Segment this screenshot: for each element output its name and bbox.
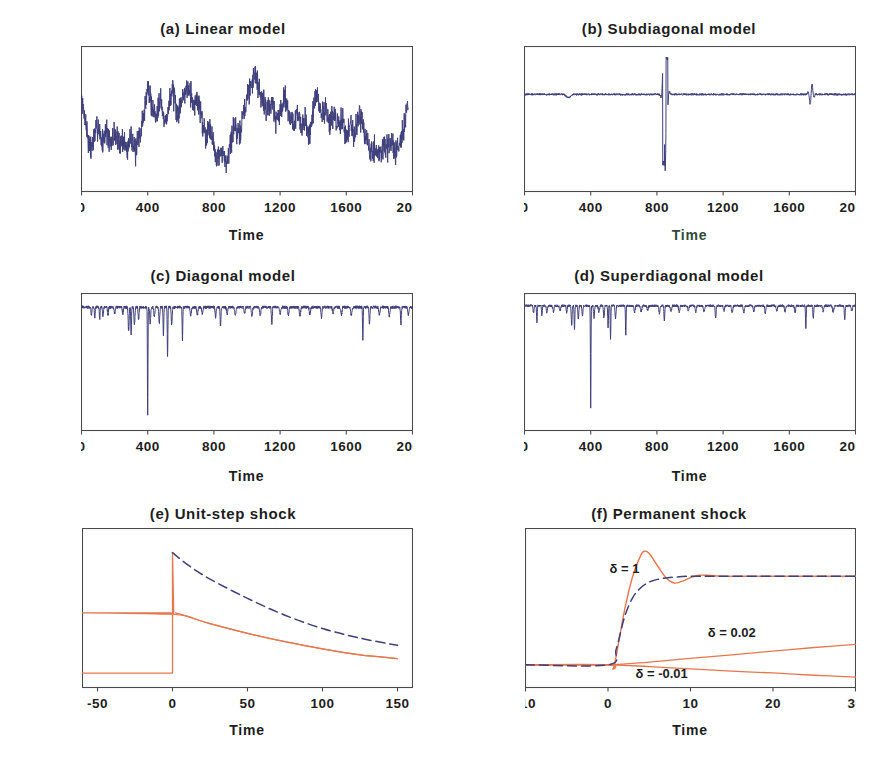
panel-a-svg: 040080012001600200020100-10	[81, 46, 413, 218]
svg-text:1200: 1200	[707, 439, 739, 454]
panel-b-subdiagonal-model: (b) Subdiagonal model 040080012001600200…	[446, 0, 892, 255]
panel-f-title: (f) Permanent shock	[446, 505, 892, 522]
svg-text:400: 400	[136, 439, 160, 454]
svg-text:1600: 1600	[330, 200, 362, 215]
svg-text:150: 150	[385, 696, 409, 711]
panel-e-xaxis-label: Time	[82, 722, 412, 738]
svg-text:10: 10	[682, 696, 698, 711]
panel-c-diagonal-model: (c) Diagonal model 04008001200160020000-…	[0, 255, 446, 495]
svg-text:800: 800	[645, 200, 669, 215]
svg-text:20: 20	[765, 696, 781, 711]
panel-f-svg: -100102030-0.50.00.51.01.52.02.53.0δ = 1…	[525, 528, 856, 714]
panel-f-xaxis-label: Time	[525, 722, 855, 738]
svg-text:0: 0	[81, 200, 86, 215]
panel-c-xaxis-label: Time	[81, 468, 412, 484]
svg-text:0: 0	[524, 200, 529, 215]
panel-d-plot: 04008001200160020000-100-200-300-400-500	[524, 293, 856, 457]
svg-text:0: 0	[168, 696, 176, 711]
panel-a-xaxis-label: Time	[81, 227, 412, 243]
panel-a-title: (a) Linear model	[0, 20, 446, 37]
svg-text:2000: 2000	[839, 439, 856, 454]
panel-f-annotation-1: δ = 1	[610, 561, 640, 576]
svg-text:800: 800	[645, 439, 669, 454]
svg-text:0: 0	[604, 696, 612, 711]
figure-panel-grid: (a) Linear model 04008001200160020002010…	[0, 0, 892, 763]
panel-e-unit-step-shock: (e) Unit-step shock -500501001500.00.20.…	[0, 495, 446, 763]
svg-text:-50: -50	[87, 696, 108, 711]
svg-text:100: 100	[310, 696, 334, 711]
svg-text:1200: 1200	[707, 200, 739, 215]
svg-text:30: 30	[847, 696, 856, 711]
panel-b-plot: 04008001200160020002000-200-400-600	[524, 46, 856, 218]
panel-f-annotation-2: δ = 0.02	[708, 625, 756, 640]
svg-text:0: 0	[524, 439, 529, 454]
panel-c-title: (c) Diagonal model	[0, 267, 446, 284]
svg-text:1600: 1600	[773, 200, 805, 215]
panel-c-plot: 04008001200160020000-100-200-300-400	[81, 293, 413, 457]
panel-e-plot: -500501001500.00.20.40.60.81.01.2	[82, 528, 413, 714]
svg-text:800: 800	[202, 200, 226, 215]
svg-text:400: 400	[579, 200, 603, 215]
svg-text:2000: 2000	[396, 200, 413, 215]
panel-d-svg: 04008001200160020000-100-200-300-400-500	[524, 293, 856, 457]
panel-a-linear-model: (a) Linear model 04008001200160020002010…	[0, 0, 446, 255]
panel-a-plot: 040080012001600200020100-10	[81, 46, 413, 218]
svg-text:400: 400	[136, 200, 160, 215]
svg-text:1600: 1600	[773, 439, 805, 454]
panel-b-title: (b) Subdiagonal model	[446, 20, 892, 37]
svg-text:1200: 1200	[264, 200, 296, 215]
svg-text:2000: 2000	[396, 439, 413, 454]
svg-text:2000: 2000	[839, 200, 856, 215]
svg-text:0: 0	[81, 439, 86, 454]
panel-f-annotation-3: δ = -0.01	[635, 666, 687, 681]
panel-b-xaxis-label: Time	[524, 227, 855, 243]
panel-e-title: (e) Unit-step shock	[0, 505, 446, 522]
panel-e-svg: -500501001500.00.20.40.60.81.01.2	[82, 528, 413, 714]
panel-f-permanent-shock: (f) Permanent shock -100102030-0.50.00.5…	[446, 495, 892, 763]
panel-d-title: (d) Superdiagonal model	[446, 267, 892, 284]
svg-text:-10: -10	[525, 696, 536, 711]
svg-text:1200: 1200	[264, 439, 296, 454]
panel-d-xaxis-label: Time	[524, 468, 855, 484]
svg-text:400: 400	[579, 439, 603, 454]
panel-d-superdiagonal-model: (d) Superdiagonal model 0400800120016002…	[446, 255, 892, 495]
svg-text:1600: 1600	[330, 439, 362, 454]
svg-text:800: 800	[202, 439, 226, 454]
panel-b-svg: 04008001200160020002000-200-400-600	[524, 46, 856, 218]
panel-c-svg: 04008001200160020000-100-200-300-400	[81, 293, 413, 457]
svg-text:50: 50	[239, 696, 255, 711]
panel-f-plot: -100102030-0.50.00.51.01.52.02.53.0δ = 1…	[525, 528, 856, 714]
